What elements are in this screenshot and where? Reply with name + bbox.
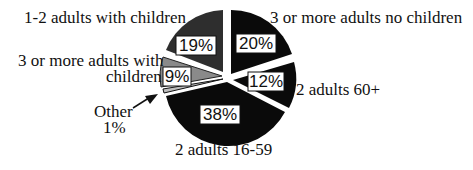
other-arrow-icon [133, 94, 158, 108]
svg-text:12%: 12% [249, 72, 283, 91]
label-3plus-with-children-line2: children [106, 68, 162, 85]
label-1-2-adults-with-children: 1-2 adults with children [24, 9, 186, 26]
pct-label-9: 9% [163, 67, 191, 86]
pct-label-20: 20% [236, 34, 276, 53]
svg-text:20%: 20% [239, 34, 273, 53]
pct-label-12: 12% [248, 72, 284, 91]
svg-text:19%: 19% [179, 36, 213, 55]
pct-label-38: 38% [200, 105, 240, 124]
svg-text:38%: 38% [203, 105, 237, 124]
svg-text:9%: 9% [165, 67, 190, 86]
label-3plus-no-children: 3 or more adults no children [270, 9, 462, 26]
label-2-adults-16-59: 2 adults 16-59 [175, 141, 272, 158]
pct-label-19: 19% [176, 36, 216, 55]
label-2-adults-60plus: 2 adults 60+ [296, 81, 380, 98]
label-other-pct: 1% [103, 119, 126, 136]
